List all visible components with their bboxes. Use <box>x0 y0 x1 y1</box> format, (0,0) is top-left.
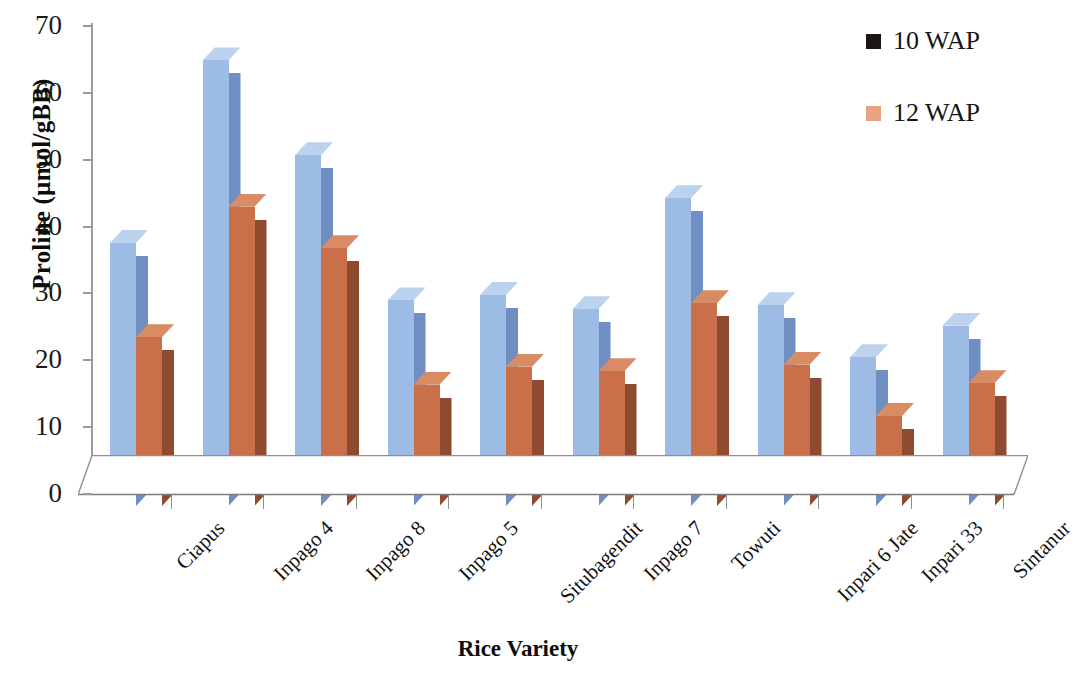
x-axis-tick-mark <box>356 495 357 509</box>
bar-front-face <box>573 309 599 493</box>
bar-side-face <box>347 261 359 506</box>
bar-top-face <box>110 230 148 243</box>
x-axis-tick-mark <box>726 495 727 509</box>
bar <box>758 305 784 493</box>
bar <box>229 207 255 493</box>
bar <box>414 385 440 493</box>
bar <box>599 371 625 493</box>
bar <box>136 337 162 493</box>
bar-front-face <box>691 303 717 493</box>
bar <box>321 248 347 493</box>
bar-side-face <box>717 316 729 506</box>
x-axis-tick-label: Towuti <box>726 516 786 576</box>
legend-item: 10 WAP <box>866 26 980 56</box>
bar-front-face <box>784 365 810 493</box>
x-axis-tick-label: Inpari 33 <box>916 516 988 588</box>
legend-swatch <box>866 106 881 121</box>
x-axis-tick-label: Inpago 7 <box>638 516 708 586</box>
bar-front-face <box>943 326 969 493</box>
bar <box>573 309 599 493</box>
y-axis-tick-mark <box>83 92 92 94</box>
bar-front-face <box>758 305 784 493</box>
bar-top-face <box>665 185 703 198</box>
x-axis-tick-label: Ciapus <box>171 516 230 575</box>
x-axis-tick-label: Inpago 4 <box>268 516 338 586</box>
bar-side-face <box>625 384 637 506</box>
bar-top-face <box>573 296 611 309</box>
bar <box>876 416 902 493</box>
bar-top-face <box>943 313 981 326</box>
y-axis-tick-mark <box>83 493 92 495</box>
bar-side-face <box>902 429 914 506</box>
chart-legend: 10 WAP12 WAP <box>866 26 980 170</box>
x-axis-tick-label: Situbagendit <box>555 516 648 609</box>
y-axis-tick-mark <box>83 226 92 228</box>
bar-front-face <box>665 198 691 493</box>
bar-front-face <box>321 248 347 493</box>
x-axis-tick-label: Inpago 8 <box>361 516 431 586</box>
bar <box>506 367 532 493</box>
bar <box>110 243 136 493</box>
y-axis-tick-label: 0 <box>49 480 63 507</box>
bar-side-face <box>255 220 267 506</box>
legend-label: 12 WAP <box>893 98 980 128</box>
bar-front-face <box>506 367 532 493</box>
bar-front-face <box>110 243 136 493</box>
x-axis-tick-mark <box>818 495 819 509</box>
legend-label: 10 WAP <box>893 26 980 56</box>
x-axis-tick-mark <box>633 495 634 509</box>
y-axis-tick-label: 10 <box>35 413 62 440</box>
bar-front-face <box>480 295 506 493</box>
bar-top-face <box>203 47 241 60</box>
bar <box>850 357 876 493</box>
y-axis-tick-mark <box>83 25 92 27</box>
x-axis-tick-mark <box>263 495 264 509</box>
bar <box>691 303 717 493</box>
legend-item: 12 WAP <box>866 98 980 128</box>
bar-side-face <box>162 350 174 506</box>
x-axis-title: Rice Variety <box>0 636 1036 662</box>
y-axis-tick-mark <box>83 292 92 294</box>
x-axis-tick-mark <box>541 495 542 509</box>
bar-side-face <box>440 398 452 506</box>
bar-front-face <box>295 155 321 493</box>
bar <box>784 365 810 493</box>
bar-front-face <box>229 207 255 493</box>
x-axis-tick-label: Sintanur <box>1007 516 1075 584</box>
bar <box>969 383 995 493</box>
bar-front-face <box>876 416 902 493</box>
bar <box>943 326 969 493</box>
y-axis-tick-mark <box>83 426 92 428</box>
bar-front-face <box>388 300 414 493</box>
bar-top-face <box>388 287 426 300</box>
bar <box>295 155 321 493</box>
x-axis-tick-mark <box>911 495 912 509</box>
x-axis-tick-mark <box>448 495 449 509</box>
bar <box>665 198 691 493</box>
y-axis-tick-mark <box>83 159 92 161</box>
x-axis-tick-mark <box>1003 495 1004 509</box>
bar-side-face <box>995 396 1007 506</box>
x-axis-tick-mark <box>171 495 172 509</box>
bar <box>203 60 229 493</box>
bar-top-face <box>480 282 518 295</box>
bar-front-face <box>599 371 625 493</box>
x-axis-tick-label: Inpago 5 <box>453 516 523 586</box>
bar-front-face <box>969 383 995 493</box>
bar-side-face <box>810 378 822 506</box>
bar-front-face <box>850 357 876 493</box>
x-axis-tick-label: Inpari 6 Jate <box>832 516 923 607</box>
bar-top-face <box>850 344 888 357</box>
bar <box>480 295 506 493</box>
legend-swatch <box>866 34 881 49</box>
bar-front-face <box>414 385 440 493</box>
y-axis-title: Proline (µmol/gBB) <box>28 0 56 384</box>
bar-top-face <box>295 142 333 155</box>
bar-side-face <box>532 380 544 506</box>
bar <box>388 300 414 493</box>
y-axis-tick-mark <box>83 359 92 361</box>
bar-top-face <box>758 292 796 305</box>
bar-front-face <box>136 337 162 493</box>
bar-front-face <box>203 60 229 493</box>
